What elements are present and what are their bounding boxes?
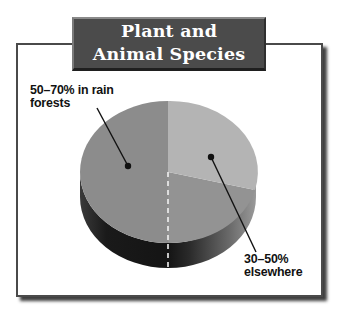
label-elsewhere: 30–50% elsewhere bbox=[244, 252, 302, 278]
label-elsewhere-line-2: elsewhere bbox=[244, 265, 302, 278]
label-rainforest-line-2: forests bbox=[30, 96, 114, 109]
leader-dot-rainforest bbox=[125, 163, 131, 169]
label-rainforest: 50–70% in rain forests bbox=[30, 83, 114, 109]
leader-dot-elsewhere bbox=[208, 154, 214, 160]
